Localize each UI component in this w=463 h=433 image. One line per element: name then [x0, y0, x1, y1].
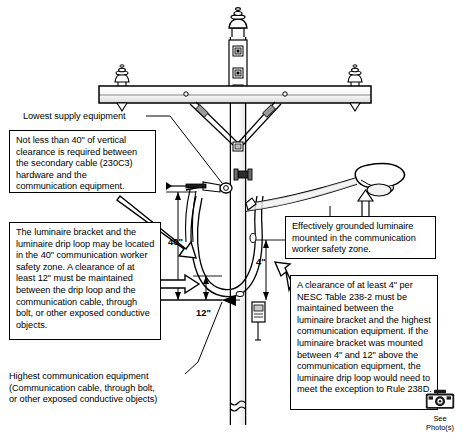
see-photos-line2: Photo(s): [421, 424, 459, 432]
drip-loop-tie: [250, 234, 256, 243]
callout-grounded-luminaire: Effectively grounded luminaire mounted i…: [285, 216, 436, 259]
callout-nesc-clearance: A clearance of at least 4" per NESC Tabl…: [290, 275, 438, 410]
through-bolt-square: [233, 46, 243, 56]
camera-icon: [425, 389, 455, 410]
brace-bolt-left: [196, 105, 209, 118]
supply-clamp: [234, 169, 252, 180]
through-bolt-square: [233, 68, 243, 78]
brace-bolt-right: [263, 105, 276, 118]
callout-luminaire-bracket: The luminaire bracket and the luminaire …: [9, 222, 161, 340]
luminaire-fixture: [355, 164, 404, 196]
label-lowest-supply-equipment: Lowest supply equipment: [23, 111, 126, 123]
see-photos-badge[interactable]: See Photo(s): [421, 389, 459, 433]
brace-pole-bolt: [233, 142, 243, 151]
callout-vertical-clearance: Not less than 40" of vertical clearance …: [9, 130, 156, 193]
luminaire-drip-loop: [191, 196, 263, 297]
pole-top-insulator: [229, 8, 247, 37]
diagram-page: Not less than 40" of vertical clearance …: [0, 0, 463, 433]
crossarm: [99, 86, 371, 103]
dimension-label-12-inch: 12": [196, 307, 211, 318]
label-highest-communication-equipment: Highest communication equipment (Communi…: [9, 371, 199, 406]
see-photos-line1: See: [421, 415, 459, 423]
dimension-label-4-inch: 4": [256, 256, 266, 267]
dimension-label-40-inch: 40": [168, 236, 183, 247]
communication-terminal-box: [252, 302, 265, 340]
drip-loop-tie: [236, 291, 244, 296]
luminaire-bracket-arm: [246, 178, 357, 211]
callout-arrow-luminaire-bracket: [160, 275, 199, 293]
